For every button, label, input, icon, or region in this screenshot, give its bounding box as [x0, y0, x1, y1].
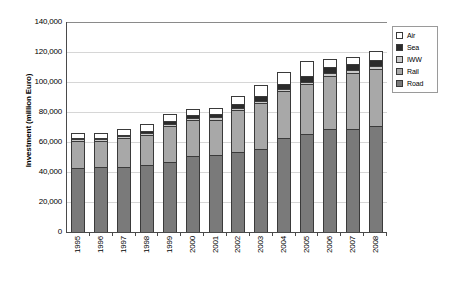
- bar-segment-rail[interactable]: [94, 141, 108, 167]
- bar-segment-rail[interactable]: [163, 126, 177, 162]
- bar-stack: [209, 108, 223, 232]
- bar-segment-rail[interactable]: [186, 120, 200, 155]
- y-tick-label: 60,000: [4, 138, 62, 146]
- bar-group[interactable]: [346, 22, 360, 232]
- bar-stack: [300, 61, 314, 232]
- bar-segment-air[interactable]: [254, 85, 268, 96]
- bar-segment-road[interactable]: [140, 165, 154, 233]
- x-tick-label: 2003: [256, 236, 265, 253]
- bar-segment-road[interactable]: [209, 155, 223, 232]
- x-tick-label: 1999: [165, 236, 174, 253]
- bar-segment-road[interactable]: [117, 167, 131, 232]
- bar-group[interactable]: [163, 22, 177, 232]
- bar-segment-air[interactable]: [300, 61, 314, 76]
- legend-item[interactable]: IWW: [396, 54, 433, 65]
- bar-stack: [186, 109, 200, 232]
- bar-segment-rail[interactable]: [71, 141, 85, 167]
- legend-label: Road: [407, 80, 423, 88]
- bar-group[interactable]: [209, 22, 223, 232]
- legend-label: Air: [407, 32, 415, 40]
- legend-swatch-icon: [396, 56, 403, 63]
- x-tick-label: 1997: [119, 236, 128, 253]
- x-tick-mark: [112, 232, 113, 236]
- legend-swatch-icon: [396, 80, 403, 87]
- bar-stack: [346, 57, 360, 232]
- legend-swatch-icon: [396, 68, 403, 75]
- bar-group[interactable]: [277, 22, 291, 232]
- bar-segment-road[interactable]: [300, 134, 314, 232]
- bar-segment-rail[interactable]: [323, 76, 337, 129]
- x-tick-label: 1998: [142, 236, 151, 253]
- bar-group[interactable]: [71, 22, 85, 232]
- bar-segment-road[interactable]: [71, 168, 85, 233]
- bar-segment-road[interactable]: [277, 138, 291, 232]
- bar-segment-rail[interactable]: [346, 73, 360, 129]
- legend-item[interactable]: Air: [396, 30, 433, 41]
- bar-segment-rail[interactable]: [117, 138, 131, 167]
- bar-group[interactable]: [254, 22, 268, 232]
- bar-segment-road[interactable]: [369, 126, 383, 232]
- bar-segment-rail[interactable]: [300, 84, 314, 134]
- bar-segment-rail[interactable]: [369, 69, 383, 127]
- bar-segment-air[interactable]: [369, 51, 383, 60]
- bar-segment-rail[interactable]: [209, 120, 223, 155]
- x-tick-label: 2001: [211, 236, 220, 253]
- bar-segment-air[interactable]: [163, 114, 177, 122]
- bars-layer: [67, 22, 387, 232]
- bar-segment-road[interactable]: [346, 129, 360, 233]
- y-axis-tick-labels: 020,00040,00060,00080,000100,000120,0001…: [0, 22, 62, 232]
- bar-group[interactable]: [140, 22, 154, 232]
- bar-segment-air[interactable]: [346, 57, 360, 65]
- bar-group[interactable]: [300, 22, 314, 232]
- bar-segment-road[interactable]: [323, 129, 337, 232]
- bar-segment-road[interactable]: [94, 167, 108, 232]
- legend-label: Sea: [407, 44, 419, 52]
- bar-group[interactable]: [231, 22, 245, 232]
- x-tick-label: 2008: [371, 236, 380, 253]
- bar-stack: [323, 59, 337, 232]
- bar-segment-air[interactable]: [140, 124, 154, 131]
- x-tick-mark: [317, 232, 318, 236]
- y-tick-label: 120,000: [4, 48, 62, 56]
- legend-item[interactable]: Sea: [396, 42, 433, 53]
- legend-item[interactable]: Rail: [396, 66, 433, 77]
- bar-segment-rail[interactable]: [254, 103, 268, 149]
- bar-segment-road[interactable]: [186, 156, 200, 233]
- bar-segment-air[interactable]: [277, 72, 291, 84]
- x-tick-mark: [249, 232, 250, 236]
- x-tick-mark: [180, 232, 181, 236]
- x-tick-mark: [226, 232, 227, 236]
- bar-segment-rail[interactable]: [277, 91, 291, 138]
- x-tick-mark: [203, 232, 204, 236]
- bar-group[interactable]: [369, 22, 383, 232]
- legend-label: Rail: [407, 68, 419, 76]
- legend-item[interactable]: Road: [396, 78, 433, 89]
- x-tick-label: 2007: [348, 236, 357, 253]
- bar-segment-rail[interactable]: [140, 135, 154, 164]
- y-tick-label: 0: [4, 228, 62, 236]
- x-tick-mark: [272, 232, 273, 236]
- legend-swatch-icon: [396, 44, 403, 51]
- bar-group[interactable]: [94, 22, 108, 232]
- bar-segment-air[interactable]: [209, 108, 223, 115]
- bar-segment-air[interactable]: [231, 96, 245, 104]
- bar-group[interactable]: [117, 22, 131, 232]
- bar-segment-rail[interactable]: [231, 110, 245, 152]
- bar-segment-road[interactable]: [163, 162, 177, 232]
- y-tick-label: 40,000: [4, 168, 62, 176]
- bar-group[interactable]: [186, 22, 200, 232]
- bar-segment-air[interactable]: [323, 59, 337, 67]
- x-tick-mark: [386, 232, 387, 236]
- x-tick-mark: [135, 232, 136, 236]
- y-tick-label: 140,000: [4, 18, 62, 26]
- x-axis-tick-labels: 1995199619971998199920002001200220032004…: [66, 236, 386, 280]
- legend-swatch-icon: [396, 32, 403, 39]
- bar-segment-road[interactable]: [231, 152, 245, 232]
- plot-area: [66, 22, 387, 233]
- bar-segment-road[interactable]: [254, 149, 268, 232]
- bar-stack: [369, 51, 383, 232]
- y-tick-label: 100,000: [4, 78, 62, 86]
- investment-stacked-bar-chart: Investment (million Euro) 020,00040,0006…: [0, 0, 456, 282]
- bar-group[interactable]: [323, 22, 337, 232]
- legend: AirSeaIWWRailRoad: [392, 26, 438, 93]
